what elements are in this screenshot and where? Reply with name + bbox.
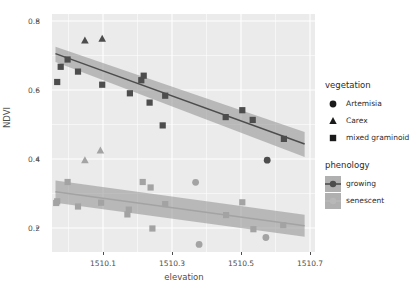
legend-item-senescent[interactable]: senescent: [325, 192, 413, 209]
point-mixed-graminoid: [149, 225, 155, 231]
y-tick-label-3: 0.2: [6, 224, 40, 233]
y-tick-mark-0: [36, 21, 39, 22]
y-tick-mark-3: [36, 228, 39, 229]
x-tick-mark-2: [241, 252, 242, 255]
legend-item-mixed-graminoid[interactable]: mixed graminoid: [325, 129, 413, 146]
y-axis: NDVI 0.8 0.6 0.4 0.2: [0, 0, 40, 298]
triangle-icon: [325, 113, 341, 129]
confidence-ribbon-growing: [56, 47, 305, 157]
point-mixed-graminoid: [162, 93, 168, 99]
point-mixed-graminoid: [281, 136, 287, 142]
legend-item-growing[interactable]: growing: [325, 175, 413, 192]
point-mixed-graminoid: [140, 179, 146, 185]
point-carex: [81, 37, 89, 44]
y-tick-label-0: 0.8: [6, 17, 40, 26]
legend-item-senescent-label: senescent: [346, 196, 384, 205]
legend-item-carex-label: Carex: [346, 116, 368, 125]
growing-key-icon: [325, 176, 341, 192]
point-mixed-graminoid: [147, 100, 153, 106]
point-mixed-graminoid: [58, 64, 64, 70]
point-mixed-graminoid: [124, 211, 130, 217]
circle-icon: [325, 96, 341, 112]
legend-vegetation-title: vegetation: [325, 80, 413, 90]
point-mixed-graminoid: [223, 212, 229, 218]
senescent-key-icon: [325, 193, 341, 209]
x-tick-mark-3: [310, 252, 311, 255]
legend-vegetation: vegetation Artemisia Carex: [325, 80, 413, 146]
point-mixed-graminoid: [239, 107, 245, 113]
x-tick-label-3: 1510.7: [297, 259, 323, 268]
point-mixed-graminoid: [223, 114, 229, 120]
point-carex: [98, 35, 106, 42]
point-artemisia: [192, 179, 199, 186]
y-tick-label-2: 0.4: [6, 155, 40, 164]
legend-item-carex[interactable]: Carex: [325, 112, 413, 129]
point-mixed-graminoid: [65, 179, 71, 185]
legend-phenology-title: phenology: [325, 160, 413, 170]
plot-panel: [52, 14, 315, 252]
legend-item-growing-label: growing: [346, 179, 376, 188]
point-mixed-graminoid: [127, 90, 133, 96]
y-tick-mark-2: [36, 159, 39, 160]
point-mixed-graminoid: [148, 184, 154, 190]
regression-line-senescent: [55, 192, 304, 226]
x-tick-mark-1: [172, 252, 173, 255]
point-mixed-graminoid: [141, 73, 147, 79]
point-mixed-graminoid: [54, 79, 60, 85]
point-mixed-graminoid: [162, 201, 168, 207]
point-mixed-graminoid: [250, 117, 256, 123]
point-mixed-graminoid: [75, 69, 81, 75]
point-mixed-graminoid: [160, 122, 166, 128]
point-mixed-graminoid: [239, 199, 245, 205]
point-mixed-graminoid: [250, 226, 256, 232]
x-axis-title: elevation: [164, 272, 203, 282]
x-tick-label-0: 1510.1: [90, 259, 116, 268]
point-mixed-graminoid: [75, 203, 81, 209]
point-artemisia: [264, 157, 271, 164]
point-mixed-graminoid: [53, 200, 59, 206]
legend-area: vegetation Artemisia Carex: [325, 80, 413, 223]
y-tick-label-1: 0.6: [6, 86, 40, 95]
regression-line-growing: [55, 54, 304, 144]
point-carex: [81, 156, 89, 163]
legend-item-artemisia[interactable]: Artemisia: [325, 95, 413, 112]
y-tick-mark-1: [36, 90, 39, 91]
legend-item-mixed-graminoid-label: mixed graminoid: [346, 133, 409, 142]
point-artemisia: [263, 234, 270, 241]
x-tick-label-2: 1510.5: [228, 259, 254, 268]
legend-phenology: phenology growing senescent: [325, 160, 413, 209]
point-mixed-graminoid: [280, 222, 286, 228]
x-tick-label-1: 1510.3: [159, 259, 185, 268]
point-mixed-graminoid: [99, 82, 105, 88]
point-mixed-graminoid: [65, 56, 71, 62]
plot-canvas: [52, 14, 315, 252]
legend-item-artemisia-label: Artemisia: [346, 99, 382, 108]
point-mixed-graminoid: [98, 200, 104, 206]
square-icon: [325, 130, 341, 146]
point-artemisia: [196, 241, 203, 248]
ndvi-elevation-scatter-figure: NDVI 0.8 0.6 0.4 0.2: [0, 0, 413, 298]
y-axis-title: NDVI: [2, 107, 12, 128]
x-tick-mark-0: [103, 252, 104, 255]
